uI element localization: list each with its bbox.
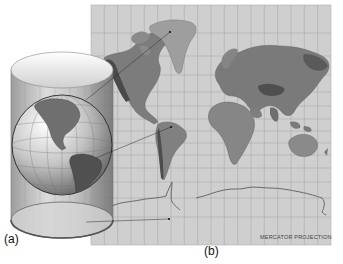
map-caption: MERCATOR PROJECTION — [260, 234, 332, 240]
panel-a-label: (a) — [4, 232, 19, 246]
figure-canvas — [0, 0, 343, 264]
cylinder-globe — [11, 52, 113, 238]
cylinder-top-ellipse — [11, 52, 113, 88]
globe — [12, 95, 112, 196]
mercator-figure: (a) (b) MERCATOR PROJECTION — [0, 0, 343, 264]
mercator-map — [91, 5, 331, 245]
panel-b-label: (b) — [204, 244, 219, 258]
